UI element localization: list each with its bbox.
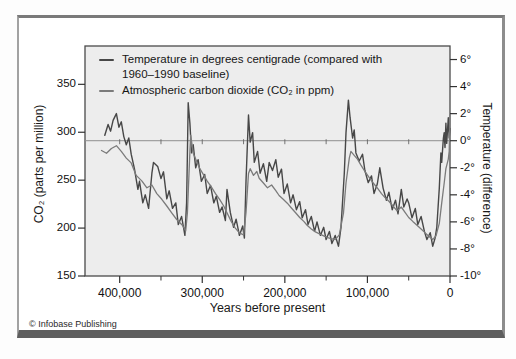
- x-axis-title: Years before present: [85, 301, 450, 315]
- right-axis-tick-label: -6°: [460, 215, 475, 227]
- left-axis-tick-label: 250: [42, 173, 76, 185]
- right-axis-tick-label: -2°: [460, 161, 475, 173]
- legend-temperature-label: Temperature in degrees centigrade (compa…: [122, 52, 382, 82]
- figure-frame: 3503002502001506°4°2°0°-2°-4°-6°-8°-10°4…: [17, 15, 505, 338]
- climate-co2-temperature-chart: 3503002502001506°4°2°0°-2°-4°-6°-8°-10°4…: [19, 18, 502, 330]
- right-axis-tick-label: 0°: [460, 134, 471, 146]
- left-axis-tick-label: 350: [42, 77, 76, 89]
- x-axis-tick-label: 300,000: [170, 286, 234, 300]
- copyright-credit: © Infobase Publishing: [29, 319, 117, 329]
- right-axis-tick-label: -4°: [460, 188, 475, 200]
- legend-co2-label: Atmospheric carbon dioxide (CO₂ in ppm): [122, 83, 334, 98]
- legend-temperature-line2: 1960–1990 baseline): [122, 68, 229, 80]
- left-axis-tick-label: 300: [42, 125, 76, 137]
- x-axis-tick-label: 400,000: [88, 286, 152, 300]
- left-axis-tick-label: 200: [42, 221, 76, 233]
- x-axis-tick-label: 100,000: [335, 286, 399, 300]
- temperature-line-swatch: [99, 59, 114, 61]
- right-axis-tick-label: -8°: [460, 242, 475, 254]
- right-axis-title: Temperature (difference): [480, 102, 494, 233]
- co2-line-swatch: [99, 90, 114, 92]
- x-axis-tick-label: 200,000: [253, 286, 317, 300]
- x-axis-tick-label: 0: [418, 286, 482, 300]
- right-axis-tick-label: -10°: [460, 269, 481, 281]
- right-axis-tick-label: 6°: [460, 53, 471, 65]
- left-axis-tick-label: 150: [42, 269, 76, 281]
- legend-temperature-line1: Temperature in degrees centigrade (compa…: [122, 53, 382, 65]
- right-axis-tick-label: 2°: [460, 107, 471, 119]
- right-axis-tick-label: 4°: [460, 80, 471, 92]
- left-axis-title: CO₂ (parts per million): [32, 105, 46, 224]
